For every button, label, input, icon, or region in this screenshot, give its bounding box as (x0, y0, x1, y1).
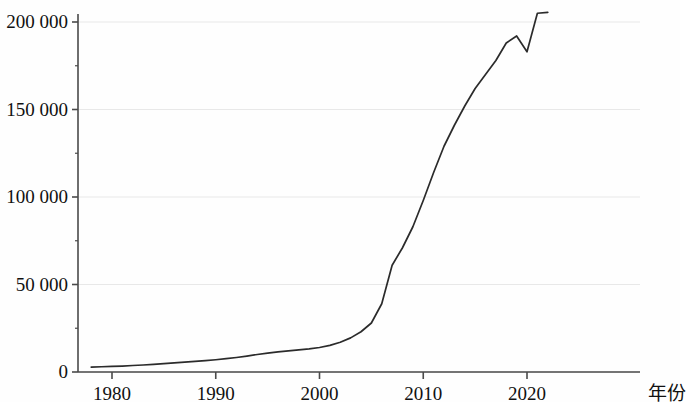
data-series-line (91, 12, 548, 367)
axes-group (78, 14, 640, 372)
x-axis-title: 年份 (648, 384, 686, 402)
y-tick-label: 0 (59, 362, 69, 381)
y-tick-label: 150 000 (6, 100, 68, 119)
x-tick-label: 2000 (280, 384, 360, 402)
gridlines-group (78, 22, 640, 372)
y-tick-label: 200 000 (6, 12, 68, 31)
x-tick-label: 1980 (72, 384, 152, 402)
y-tick-label: 100 000 (6, 187, 68, 206)
x-tick-label: 2010 (383, 384, 463, 402)
ticks-group (72, 22, 527, 379)
x-tick-label: 1990 (176, 384, 256, 402)
y-tick-label: 50 000 (16, 275, 68, 294)
x-tick-label: 2020 (487, 384, 567, 402)
